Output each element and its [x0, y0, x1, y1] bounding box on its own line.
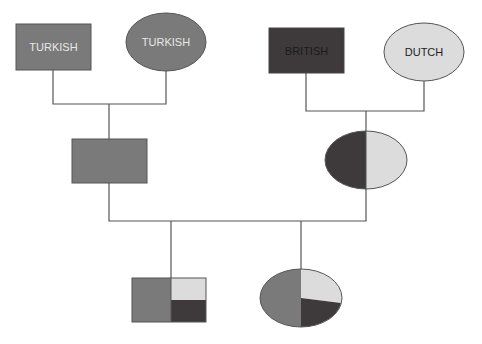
dutch-quarter	[171, 278, 206, 300]
connector-parents-couple	[109, 183, 366, 221]
turkish-half	[132, 278, 171, 322]
daughter-mixed-circle	[260, 269, 342, 327]
dutch-quarter	[301, 269, 342, 303]
ancestry-label: BRITISH	[285, 45, 328, 57]
ancestry-label: TURKISH	[29, 41, 77, 53]
dutch-half	[366, 131, 407, 189]
grandmother-dutch: DUTCH	[384, 23, 464, 81]
ancestry-label: DUTCH	[405, 46, 444, 58]
father-turkish-square	[72, 139, 147, 183]
connector-british-dutch-couple	[306, 73, 424, 111]
family-tree-diagram: TURKISH TURKISH BRITISH DUTCH	[0, 0, 482, 344]
british-half	[325, 131, 366, 189]
ancestry-label: TURKISH	[142, 36, 190, 48]
british-quarter	[301, 298, 341, 327]
turkish-half	[260, 269, 301, 327]
grandfather-turkish: TURKISH	[16, 24, 91, 70]
connector-turkish-couple	[53, 70, 166, 104]
british-quarter	[171, 300, 206, 322]
grandfather-british: BRITISH	[269, 28, 344, 73]
grandmother-turkish: TURKISH	[126, 13, 206, 71]
son-mixed-square	[132, 278, 206, 322]
mother-british-dutch-circle	[325, 131, 407, 189]
